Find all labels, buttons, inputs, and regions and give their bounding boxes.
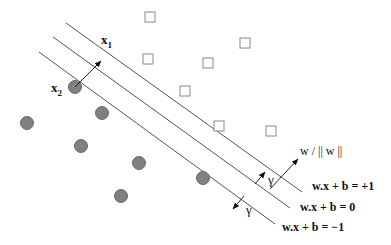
hyperplane-decision-boundary (53, 37, 290, 208)
circle-point (197, 172, 210, 185)
equation-positive-margin: w.x + b = +1 (312, 179, 374, 193)
square-point (180, 86, 190, 96)
svm-margin-diagram: x1 x2 w / || w || γ γ w.x + b = +1w.x + … (0, 0, 391, 245)
circle-point (133, 157, 146, 170)
gamma-upper-arrow (255, 172, 265, 184)
square-point (145, 12, 155, 22)
square-point (266, 126, 276, 136)
square-point (214, 121, 224, 131)
negative-class-points (21, 81, 210, 203)
x1-label: x1 (101, 32, 113, 50)
circle-point (96, 107, 109, 120)
hyperplane-negative-margin (39, 52, 275, 224)
equation-negative-margin: w.x + b = −1 (282, 220, 344, 234)
x2-to-x1-arrow (75, 61, 101, 87)
normal-vector-arrow (270, 159, 298, 189)
square-point (240, 38, 250, 48)
positive-class-points (143, 12, 276, 136)
gamma-lower-label: γ (245, 202, 252, 217)
circle-point (75, 140, 88, 153)
square-point (203, 58, 213, 68)
hyperplanes (39, 23, 302, 224)
gamma-upper-label: γ (267, 172, 274, 187)
equation-decision-boundary: w.x + b = 0 (300, 200, 355, 214)
square-point (143, 54, 153, 64)
circle-point (115, 190, 128, 203)
x2-label: x2 (51, 80, 63, 98)
circle-point (21, 117, 34, 130)
normal-vector-label: w / || w || (300, 144, 342, 158)
